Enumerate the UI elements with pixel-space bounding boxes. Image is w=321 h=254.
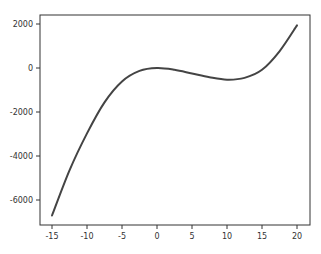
y-tick-label: -4000	[10, 152, 33, 161]
y-axis: 20000-2000-4000-6000	[10, 20, 40, 205]
x-tick-label: 15	[257, 232, 267, 241]
y-tick-label: 0	[28, 64, 33, 73]
x-tick-label: 0	[154, 232, 159, 241]
x-tick-label: 5	[189, 232, 194, 241]
line-chart: -15-10-505101520 20000-2000-4000-6000	[0, 0, 321, 254]
y-tick-label: -2000	[10, 108, 33, 117]
x-tick-label: -10	[80, 232, 93, 241]
y-tick-label: -6000	[10, 196, 33, 205]
x-tick-label: -5	[118, 232, 126, 241]
y-tick-label: 2000	[13, 20, 33, 29]
x-axis: -15-10-505101520	[45, 225, 302, 241]
x-tick-label: -15	[45, 232, 58, 241]
x-tick-label: 20	[292, 232, 302, 241]
plot-area	[40, 15, 310, 225]
x-tick-label: 10	[222, 232, 232, 241]
